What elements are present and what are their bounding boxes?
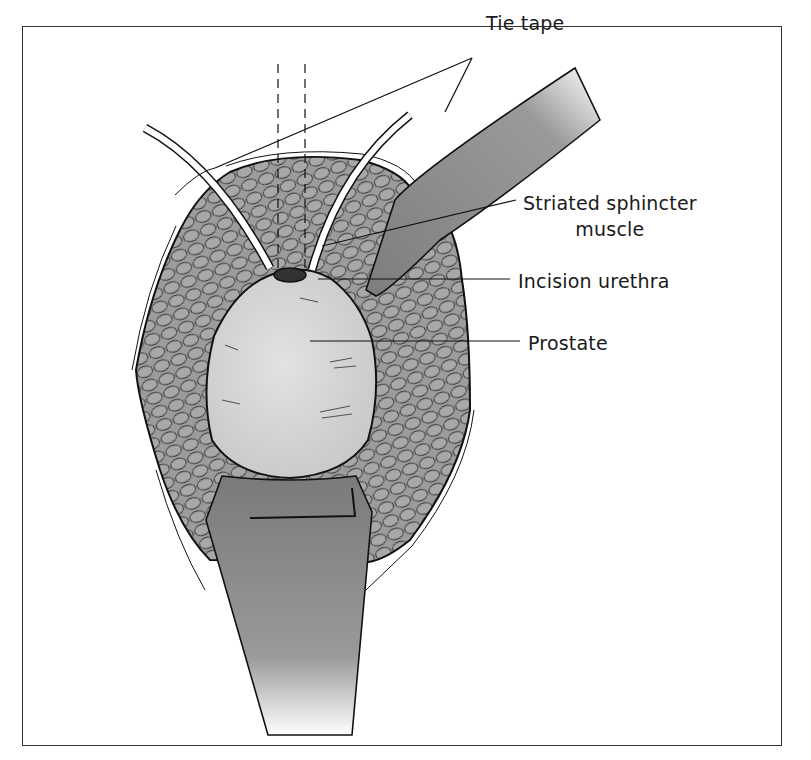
label-prostate: Prostate: [528, 330, 608, 356]
label-tie-tape: Tie tape: [486, 10, 564, 36]
label-striated-sphincter-line1: Striated sphincter: [523, 190, 697, 216]
lower-retractor: [206, 476, 372, 735]
label-striated-sphincter: Striated sphincter muscle: [523, 190, 697, 242]
label-striated-sphincter-line2: muscle: [523, 216, 697, 242]
label-incision-urethra: Incision urethra: [518, 268, 670, 294]
urethra-stump: [274, 268, 306, 282]
surgical-illustration: [0, 0, 811, 760]
